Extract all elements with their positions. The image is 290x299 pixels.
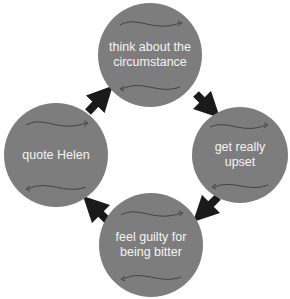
node-quote-helen: quote Helen: [4, 103, 108, 207]
curved-arrow-decoration-icon: [99, 193, 203, 297]
node-feel-guilty: feel guilty for being bitter: [99, 193, 203, 297]
node-get-really-upset: get really upset: [192, 107, 288, 203]
curved-arrow-decoration-icon: [192, 107, 288, 203]
node-think-about-circumstance: think about the circumstance: [98, 3, 202, 107]
curved-arrow-decoration-icon: [98, 3, 202, 107]
curved-arrow-decoration-icon: [4, 103, 108, 207]
